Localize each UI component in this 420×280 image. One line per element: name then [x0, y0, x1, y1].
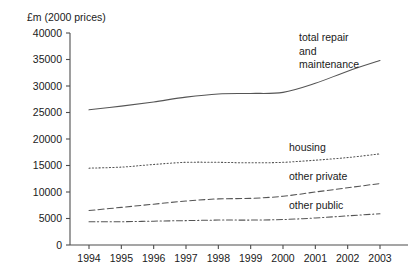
- series-label-other-private: other private: [289, 170, 348, 182]
- series-label-line: and: [299, 45, 317, 57]
- x-axis-tick-labels: 1994199519961997199819992000200120022003: [77, 252, 392, 264]
- series-label-total-repair-and-maintenance: total repairandmaintenance: [299, 31, 359, 70]
- y-axis-tick-labels: 0500010000150002000025000300003500040000: [33, 27, 62, 251]
- series-label-line: total repair: [299, 31, 349, 43]
- y-tick-label: 35000: [33, 53, 62, 65]
- series-label-line: other public: [289, 199, 343, 211]
- series-label-line: other private: [289, 170, 348, 182]
- x-tick-label: 1997: [174, 252, 198, 264]
- x-tick-label: 1994: [77, 252, 101, 264]
- y-tick-label: 10000: [33, 186, 62, 198]
- x-tick-label: 2000: [271, 252, 295, 264]
- x-tick-label: 2002: [336, 252, 360, 264]
- y-tick-label: 15000: [33, 159, 62, 171]
- x-tick-label: 1998: [207, 252, 231, 264]
- x-tick-label: 2003: [368, 252, 392, 264]
- series-annotations: total repairandmaintenancehousingother p…: [289, 31, 359, 211]
- series-lines: [89, 61, 380, 222]
- y-tick-label: 40000: [33, 27, 62, 39]
- line-chart: £m (2000 prices) 05000100001500020000250…: [0, 0, 420, 280]
- y-tick-label: 25000: [33, 106, 62, 118]
- x-tick-label: 2001: [304, 252, 328, 264]
- x-tick-label: 1996: [142, 252, 166, 264]
- y-axis-title: £m (2000 prices): [27, 11, 106, 23]
- series-label-housing: housing: [289, 141, 326, 153]
- series-label-other-public: other public: [289, 199, 343, 211]
- y-tick-label: 30000: [33, 80, 62, 92]
- x-tick-label: 1995: [110, 252, 134, 264]
- series-line-other-public: [89, 214, 380, 222]
- y-tick-label: 0: [56, 239, 62, 251]
- y-tick-label: 5000: [39, 212, 63, 224]
- series-label-line: housing: [289, 141, 326, 153]
- series-label-line: maintenance: [299, 58, 359, 70]
- chart-container: £m (2000 prices) 05000100001500020000250…: [0, 0, 420, 280]
- x-tick-label: 1999: [239, 252, 263, 264]
- y-tick-label: 20000: [33, 133, 62, 145]
- series-line-housing: [89, 154, 380, 168]
